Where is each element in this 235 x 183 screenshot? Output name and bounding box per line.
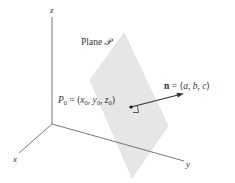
z-axis-label: z bbox=[49, 5, 54, 15]
x-axis bbox=[19, 124, 52, 153]
plane-symbol: 𝒫 bbox=[104, 37, 114, 47]
point-p0 bbox=[129, 105, 132, 108]
normal-label: n = ⟨a, b, c⟩ bbox=[164, 81, 210, 91]
plane-p bbox=[90, 33, 168, 178]
point-label: P0 = (x0, y0, z0) bbox=[57, 95, 115, 106]
x-axis-label: x bbox=[12, 154, 17, 164]
normal-arrowhead bbox=[177, 93, 185, 98]
plane-normal-diagram: z x y Plane 𝒫 P0 = (x0, y0, z0) n = ⟨a, … bbox=[0, 0, 235, 183]
plane-label: Plane 𝒫 bbox=[81, 37, 114, 47]
y-axis-label: y bbox=[185, 159, 190, 169]
